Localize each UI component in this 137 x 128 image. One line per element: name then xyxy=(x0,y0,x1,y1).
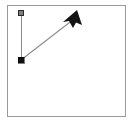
handle-top[interactable] xyxy=(19,11,24,16)
canvas-surface[interactable] xyxy=(0,0,137,128)
handle-origin[interactable] xyxy=(18,57,24,63)
diagonal-vector-line[interactable] xyxy=(21,19,74,60)
screenshot-root xyxy=(0,0,137,128)
vector-graphics-layer xyxy=(0,0,137,128)
